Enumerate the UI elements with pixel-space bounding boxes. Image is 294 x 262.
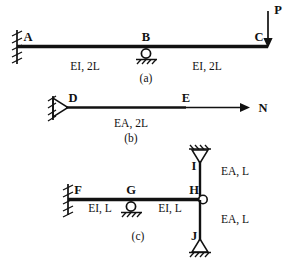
label-load-n: N — [258, 101, 267, 115]
roller-support-g-icon — [121, 202, 142, 217]
label-point-i: I — [192, 159, 197, 173]
axial-load-n-arrow — [186, 103, 250, 112]
caption-a: (a) — [140, 72, 153, 85]
diagram-b: D E N EA, 2L (b) — [48, 91, 268, 145]
label-span-gh: EI, L — [158, 202, 182, 215]
point-load-p-arrow — [263, 11, 272, 48]
label-bar-hj: EA, L — [221, 213, 249, 226]
label-span-fg: EI, L — [88, 202, 112, 215]
label-bar-hi: EA, L — [221, 165, 249, 178]
structural-figure: A B C P EI, 2L EI, 2L (a) — [0, 0, 294, 262]
label-point-j: J — [191, 229, 197, 243]
diagram-a: A B C P EI, 2L EI, 2L (a) — [12, 3, 282, 85]
label-point-d: D — [68, 91, 77, 105]
label-point-f: F — [74, 183, 82, 197]
caption-b: (b) — [124, 132, 138, 145]
figure-root: A B C P EI, 2L EI, 2L (a) — [0, 0, 294, 262]
pin-support-d-icon — [48, 96, 68, 121]
label-point-h: H — [189, 183, 199, 197]
label-span-ab: EI, 2L — [70, 60, 99, 73]
label-point-a: A — [23, 30, 32, 44]
label-point-b: B — [142, 30, 150, 44]
label-point-g: G — [126, 183, 136, 197]
roller-support-b-icon — [136, 49, 157, 64]
label-load-p: P — [274, 3, 282, 17]
label-span-de: EA, 2L — [114, 117, 148, 130]
diagram-c: F G H I J EI, L EI, L EA, L EA, L (c) — [63, 145, 249, 257]
caption-c: (c) — [132, 230, 145, 243]
label-point-e: E — [182, 91, 190, 105]
label-span-bc: EI, 2L — [192, 60, 221, 73]
label-point-c: C — [254, 30, 263, 44]
